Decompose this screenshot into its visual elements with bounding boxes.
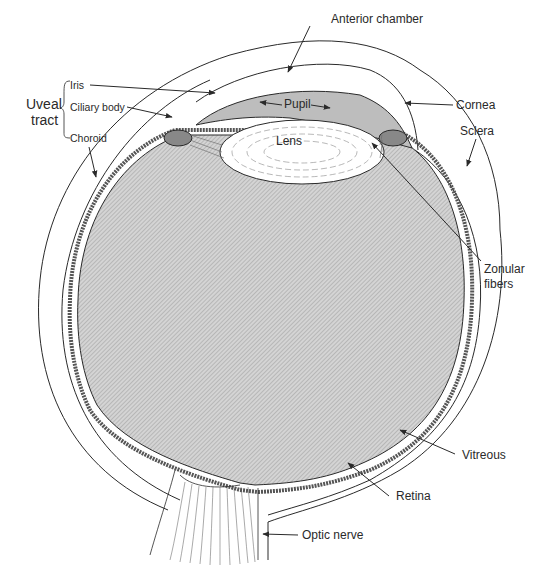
label-anterior-chamber: Anterior chamber xyxy=(331,12,423,26)
label-sclera: Sclera xyxy=(460,124,494,138)
lens xyxy=(220,120,384,184)
label-pupil: Pupil xyxy=(284,97,311,111)
label-uveal-tract-line2: tract xyxy=(31,112,58,128)
label-zonular-fibers-line2: fibers xyxy=(484,277,513,291)
label-iris: Iris xyxy=(70,78,84,92)
label-uveal-tract-line1: Uveal xyxy=(26,96,62,112)
optic-nerve xyxy=(150,470,258,565)
label-vitreous: Vitreous xyxy=(462,448,506,462)
label-lens: Lens xyxy=(276,134,302,148)
label-zonular-fibers-line1: Zonular xyxy=(484,262,525,276)
label-cornea: Cornea xyxy=(456,98,495,112)
label-choroid: Choroid xyxy=(70,131,107,145)
label-ciliary-body: Ciliary body xyxy=(70,100,125,114)
label-optic-nerve: Optic nerve xyxy=(302,528,363,542)
label-retina: Retina xyxy=(396,489,431,503)
